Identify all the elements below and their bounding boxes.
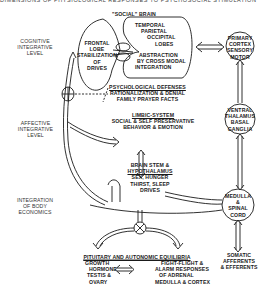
medulla-label: MEDULLA & SPINAL CORD <box>224 193 252 218</box>
frontal-line: DRIVES <box>77 65 117 71</box>
social-brain-title: "SOCIAL" BRAIN <box>104 11 164 17</box>
brainstem-line: SEX, HUNGER <box>125 174 175 180</box>
abstraction-label: ABSTRACTION BY CROSS MODAL INTEGRATION <box>131 52 191 71</box>
primary-cortex-line: MOTOR <box>226 54 254 60</box>
frontal-lobe-label: FRONTAL LOBE STABILIZATION OF DRIVES <box>77 40 117 71</box>
cross-modal-lobe-small-1 <box>116 43 130 51</box>
frontal-line: STABILIZATION <box>77 52 117 58</box>
limbic-system-block: LIMBIC-SYSTEM SOCIAL & SELF PRESERVATIVE… <box>108 112 198 131</box>
level-body-line: ECONOMICS <box>5 209 65 215</box>
ventral-thalamus-label: VENTRAL THALAMUS BASAL GANGLIA <box>225 107 255 132</box>
primary-cortex-label: PRIMARY CORTEX SENSORY MOTOR <box>226 35 254 60</box>
level-affective-line: LEVEL <box>8 132 63 138</box>
somatic-line: & EFFERENTS <box>218 264 260 270</box>
level-affective: AFFECTIVE INTEGRATIVE LEVEL <box>8 120 63 139</box>
level-cognitive-line: LEVEL <box>5 50 65 56</box>
brainstem-line: THIRST, SLEEP <box>125 181 175 187</box>
temporal-line: LOBES <box>133 41 188 47</box>
limbic-line: BEHAVIOR & EMOTION <box>108 124 198 130</box>
pituitary-left-line: OVARY <box>85 279 125 285</box>
pituitary-right-line: MEDULLA & CORTEX <box>155 279 215 285</box>
pituitary-right-block: FIGHT-FLIGHT & ALARM RESPONSES OF ADRENA… <box>155 260 215 285</box>
brainstem-line: DRIVES <box>125 187 175 193</box>
level-body-economics: INTEGRATION OF BODY ECONOMICS <box>5 197 65 216</box>
psych-defenses-line: FAMILY PRAYER FACTS <box>100 96 195 102</box>
medulla-line: CORD <box>224 212 252 218</box>
somatic-block: SOMATIC AFFERENTS & EFFERENTS <box>218 252 260 271</box>
primary-cortex-line: SENSORY <box>226 47 254 53</box>
abstraction-line: INTEGRATION <box>131 64 191 70</box>
level-cognitive: COGNITIVE INTEGRATIVE LEVEL <box>5 38 65 57</box>
temporal-lobes-label: TEMPORAL PARIETAL OCCIPITAL LOBES <box>133 22 188 47</box>
double-arrow-cortex <box>196 42 224 52</box>
psych-defenses-block: PSYCHOLOGICAL DEFENSES RATIONALIZATION &… <box>100 84 195 103</box>
medulla-line: SPINAL <box>224 205 252 211</box>
brainstem-block: BRAIN STEM & HYPOTHALAMUS SEX, HUNGER TH… <box>125 162 175 193</box>
ventral-thalamus-line: GANGLIA <box>225 126 255 132</box>
pituitary-left-block: GROWTH HORMONE TESTIS & OVARY <box>85 260 125 285</box>
